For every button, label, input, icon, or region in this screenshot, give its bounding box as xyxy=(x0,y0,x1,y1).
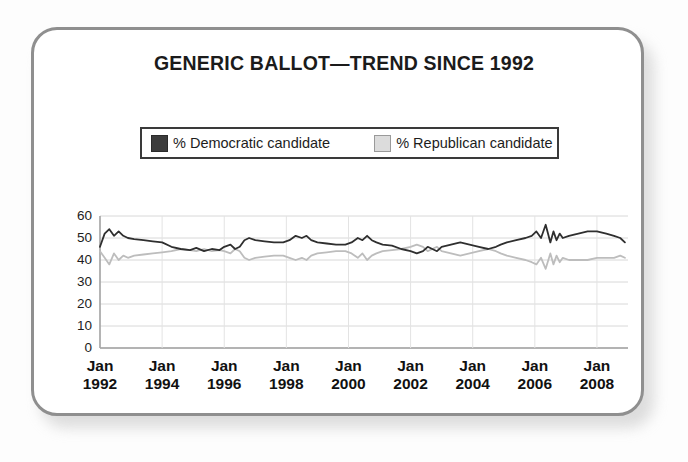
screenshot-root: GENERIC BALLOT—TREND SINCE 1992 % Democr… xyxy=(0,0,688,462)
x-tick-year: 1992 xyxy=(65,375,135,393)
y-axis-tick-label: 10 xyxy=(58,319,92,333)
legend-item-republican: % Republican candidate xyxy=(374,129,552,157)
x-tick-year: 2002 xyxy=(376,375,446,393)
x-tick-year: 1996 xyxy=(189,375,259,393)
x-tick-year: 2008 xyxy=(562,375,632,393)
x-tick-month: Jan xyxy=(500,357,570,375)
legend-swatch-republican-icon xyxy=(374,135,391,152)
x-tick-month: Jan xyxy=(65,357,135,375)
x-tick-month: Jan xyxy=(376,357,446,375)
x-tick-year: 1998 xyxy=(251,375,321,393)
x-axis-tick-label: Jan2008 xyxy=(562,357,632,394)
chart-legend: % Democratic candidate % Republican cand… xyxy=(140,127,559,159)
x-tick-month: Jan xyxy=(189,357,259,375)
x-axis-tick-label: Jan2006 xyxy=(500,357,570,394)
y-axis-tick-label: 30 xyxy=(58,275,92,289)
y-axis-tick-label: 60 xyxy=(58,209,92,223)
x-tick-month: Jan xyxy=(562,357,632,375)
legend-label-republican: % Republican candidate xyxy=(396,135,552,151)
x-tick-month: Jan xyxy=(127,357,197,375)
x-axis-tick-label: Jan2000 xyxy=(313,357,383,394)
chart-title: GENERIC BALLOT—TREND SINCE 1992 xyxy=(0,52,688,75)
x-tick-year: 2006 xyxy=(500,375,570,393)
x-tick-year: 2004 xyxy=(438,375,508,393)
x-axis-tick-label: Jan1996 xyxy=(189,357,259,394)
legend-swatch-democratic-icon xyxy=(151,135,168,152)
x-axis-tick-label: Jan2002 xyxy=(376,357,446,394)
y-axis-tick-label: 20 xyxy=(58,297,92,311)
x-tick-month: Jan xyxy=(251,357,321,375)
legend-item-democratic: % Democratic candidate xyxy=(151,129,330,157)
y-axis-tick-label: 0 xyxy=(58,341,92,355)
x-axis-tick-label: Jan2004 xyxy=(438,357,508,394)
x-tick-month: Jan xyxy=(313,357,383,375)
x-axis-tick-label: Jan1992 xyxy=(65,357,135,394)
x-tick-year: 1994 xyxy=(127,375,197,393)
legend-label-democratic: % Democratic candidate xyxy=(173,135,330,151)
x-axis-tick-label: Jan1998 xyxy=(251,357,321,394)
x-tick-year: 2000 xyxy=(313,375,383,393)
x-tick-month: Jan xyxy=(438,357,508,375)
x-axis-tick-label: Jan1994 xyxy=(127,357,197,394)
y-axis-tick-label: 40 xyxy=(58,253,92,267)
y-axis-tick-label: 50 xyxy=(58,231,92,245)
